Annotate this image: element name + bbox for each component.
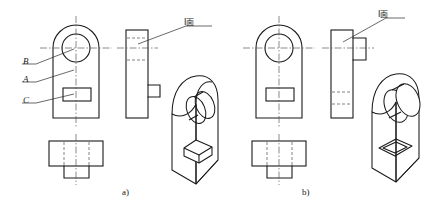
engineering-drawing-canvas: [0, 0, 429, 213]
leader-B: [22, 49, 74, 64]
top-view-lower-rect: [64, 166, 89, 178]
iso-bottom-right-edge: [396, 158, 419, 182]
panel-a: [22, 16, 219, 185]
front-view-slot-rect: [63, 88, 91, 101]
iso-front-face: [372, 102, 396, 182]
side-view-boss-outline: [353, 38, 366, 60]
panel-b-top-view: [252, 134, 306, 185]
leader-face-I-a: [138, 26, 212, 44]
iso-bottom-right-edge: [196, 160, 218, 184]
panel-b-side-view: [322, 30, 374, 118]
top-view-lower-rect: [267, 166, 292, 178]
feature-label-face-I-b: I面: [378, 11, 388, 19]
surface-label-C: C: [23, 96, 29, 105]
panel-a-leaders: [22, 26, 212, 103]
caption-b: b): [302, 188, 310, 197]
front-view-slot-rect: [266, 88, 294, 101]
side-view-boss-outline: [148, 85, 160, 97]
panel-b: [243, 16, 425, 185]
surface-label-A: A: [23, 75, 29, 84]
drawing-sheet: B A C I面 I面 a) b): [0, 0, 429, 213]
caption-a: a): [122, 188, 129, 197]
leader-A: [22, 70, 74, 82]
side-view-body-rect: [331, 30, 353, 118]
feature-label-face-I-a: I面: [184, 19, 194, 27]
side-view-body-rect: [126, 30, 148, 118]
panel-a-top-view: [49, 134, 103, 185]
panel-a-front-view: [40, 16, 112, 128]
panel-b-front-view: [243, 16, 315, 128]
surface-label-B: B: [23, 57, 29, 66]
panel-a-side-view: [117, 30, 160, 118]
panel-b-iso-view: [372, 74, 425, 182]
panel-a-iso-view: [172, 76, 219, 184]
leader-C: [22, 94, 74, 103]
